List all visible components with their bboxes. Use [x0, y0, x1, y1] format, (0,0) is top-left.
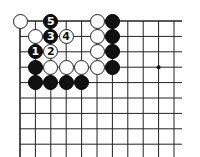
black-stone: [105, 29, 120, 44]
white-stone: [13, 14, 28, 29]
white-stone: [90, 60, 105, 75]
black-stone: [59, 75, 74, 90]
black-stone: [105, 14, 120, 29]
white-stone: [90, 29, 105, 44]
go-board: 53412: [0, 0, 200, 157]
black-stone: [105, 60, 120, 75]
white-stone: [59, 60, 74, 75]
black-stone: [28, 60, 43, 75]
white-stone: [74, 60, 89, 75]
black-stone-move-5: 5: [43, 14, 58, 29]
black-stone: [28, 75, 43, 90]
white-stone: [28, 29, 43, 44]
white-stone: [90, 14, 105, 29]
white-stone: [43, 60, 58, 75]
star-point: [157, 65, 161, 69]
white-stone-move-4: 4: [59, 29, 74, 44]
white-stone: [90, 44, 105, 59]
